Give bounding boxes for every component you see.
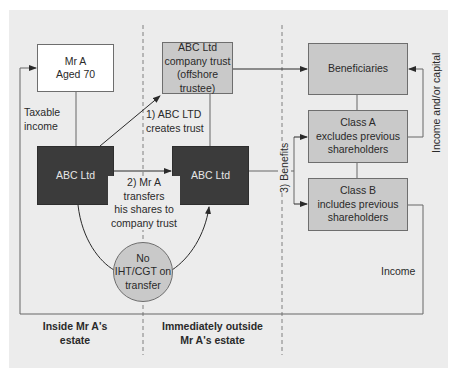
abc-ltd-inside-label: ABC Ltd [56,169,95,183]
no-tax-circle: No IHT/CGT on transfer [113,242,173,302]
abc-ltd-outside-box: ABC Ltd [172,146,249,205]
mr-a-label: Mr A Aged 70 [56,55,95,82]
class-b-box: Class B includes previous shareholders [308,178,408,231]
step2-label: 2) Mr A transfers his shares to company … [108,176,180,230]
class-a-box: Class A excludes previous shareholders [308,110,408,163]
income-label: Income [381,265,415,279]
company-trust-box: ABC Ltd company trust (offshore trustee) [162,42,233,94]
step1-label: 1) ABC LTD creates trust [146,108,204,135]
zone-inside-label: Inside Mr A's estate [30,319,120,347]
income-capital-label: Income and/or capital [430,53,443,153]
abc-ltd-inside-box: ABC Ltd [37,146,114,205]
no-tax-label: No IHT/CGT on transfer [115,252,171,293]
abc-ltd-outside-label: ABC Ltd [191,169,230,183]
company-trust-label: ABC Ltd company trust (offshore trustee) [163,41,232,95]
beneficiaries-label: Beneficiaries [328,62,388,76]
taxable-income-label: Taxable income [24,106,60,133]
class-b-label: Class B includes previous shareholders [317,184,398,225]
class-a-label: Class A excludes previous shareholders [316,116,400,157]
zone-outside-label: Immediately outside Mr A's estate [150,319,275,347]
step3-label: 3) Benefits [278,143,291,193]
mr-a-box: Mr A Aged 70 [37,44,114,92]
beneficiaries-box: Beneficiaries [308,43,408,95]
